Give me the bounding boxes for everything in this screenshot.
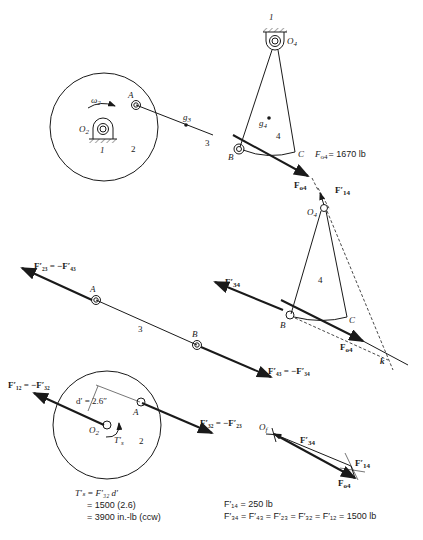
pin-B-icon xyxy=(234,144,244,154)
point-C-fbd-label: C xyxy=(349,315,356,325)
link-3-fbd-label: 3 xyxy=(138,324,143,334)
point-A2-label: A xyxy=(132,407,139,417)
force-polygon: Of F′34 F′14 Fo4 F′₁₄ = 250 lb F′₃₄ = F′… xyxy=(224,422,376,521)
fo4-value-label: Fo4= 1670 lb xyxy=(314,149,366,161)
o2-ground-support-icon xyxy=(89,118,117,143)
force-f23-arrow xyxy=(22,268,92,300)
link-3-label: 3 xyxy=(205,138,210,148)
link-3-fbd-bar xyxy=(96,300,197,345)
o4-label: O4 xyxy=(287,36,298,48)
a-pin2-icon xyxy=(137,398,145,406)
result-equal-forces: F′₃₄ = F′₄₃ = F′₂₃ = F′₃₂ = F′₁₂ = 1500 … xyxy=(224,511,376,521)
ground-label: 1 xyxy=(269,12,274,22)
result-f14-value: F′₁₄ = 250 lb xyxy=(224,499,273,509)
fo4-fbd-label: Fo4 xyxy=(340,342,353,354)
point-A-label: A xyxy=(127,90,134,100)
b-pin-icon xyxy=(286,311,294,319)
polygon-f14-label: F′14 xyxy=(355,458,371,470)
torque-calc-line3: = 3900 in.-lb (ccw) xyxy=(87,512,161,522)
force-f43-arrow xyxy=(201,347,271,377)
link-4-fbd-label: 4 xyxy=(318,275,323,285)
point-B-fbd-label: B xyxy=(280,320,286,330)
f12-eq-label: F′₁₂ = −F′₃₂ xyxy=(8,380,50,390)
torque-label: T′s xyxy=(114,435,124,447)
link4-free-body: F′14 O4 4 F′34 B C Fo4 k xyxy=(215,185,408,370)
o2-pin-icon xyxy=(103,421,111,429)
torque-calc-line2: = 1500 (2.6) xyxy=(87,500,136,510)
link-4-body xyxy=(240,50,295,156)
crank-disc-fbd xyxy=(53,371,161,479)
fo4-arrow-label: Fo4 xyxy=(294,180,307,192)
o2-fbd-label: O2 xyxy=(89,425,100,437)
torque-calc-line1: T′ₛ = F′₃₂ d′ xyxy=(75,488,119,498)
f32-eq-label: F′₃₂ = −F′₂₃ xyxy=(200,418,242,428)
polygon-fo4-label: Fo4 xyxy=(338,478,351,490)
o4-fbd-label: O4 xyxy=(307,207,318,219)
polygon-f34-label: F′34 xyxy=(300,435,316,447)
link-3-bar xyxy=(136,105,213,135)
point-k-label: k xyxy=(380,356,385,366)
f14-label: F′14 xyxy=(335,185,351,197)
top-linkage: 1 O4 O2 1 2 ω2 A g3 3 g4 4 B C Fo4 Fo4= … xyxy=(50,12,366,192)
f23-eq-label: F′₂₃ = −F′₄₃ xyxy=(34,261,76,271)
of-label: Of xyxy=(259,422,269,434)
crank-disc xyxy=(50,73,158,181)
g3-label: g3 xyxy=(183,112,192,124)
link-2-label: 2 xyxy=(131,144,136,154)
crank-ground-label: 1 xyxy=(100,145,105,155)
f43-eq-label: F′₄₃ = −F′₃₄ xyxy=(268,366,310,376)
force-fo4-arrow xyxy=(233,135,308,176)
link-4-label: 4 xyxy=(276,131,281,141)
point-B3-label: B xyxy=(192,329,198,339)
point-C-label: C xyxy=(298,149,305,159)
link3-free-body: F′₂₃ = −F′₄₃ A 3 B F′₄₃ = −F′₃₄ xyxy=(22,261,310,377)
point-B-label: B xyxy=(228,152,234,162)
o4-ground-support-icon xyxy=(263,28,287,50)
d-dimension-label: d′ = 2.6″ xyxy=(76,396,107,406)
link-2-fbd-label: 2 xyxy=(139,436,144,446)
o4-pin-icon xyxy=(321,205,328,212)
point-A3-label: A xyxy=(89,284,96,294)
g4-point-icon xyxy=(267,116,271,120)
linkage-diagram: 1 O4 O2 1 2 ω2 A g3 3 g4 4 B C Fo4 Fo4= … xyxy=(0,0,423,540)
o2-label: O2 xyxy=(79,124,90,136)
link2-free-body: F′₁₂ = −F′₃₂ d′ = 2.6″ A O2 T′s 2 F′₃₂ =… xyxy=(8,371,242,522)
g4-label: g4 xyxy=(259,118,268,130)
